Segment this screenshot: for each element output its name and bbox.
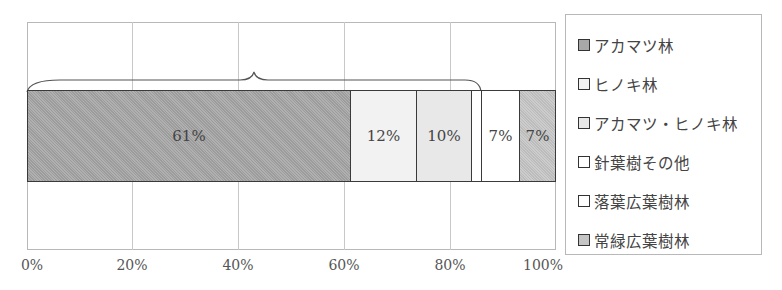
legend-label: 落葉広葉樹林: [594, 190, 690, 212]
x-tick-20: 20%: [116, 257, 147, 273]
segment-label: 7%: [526, 127, 550, 145]
legend-item-akamatsu-hinoki: アカマツ・ヒノキ林: [578, 103, 761, 142]
legend-swatch: [578, 195, 590, 207]
legend-label: アカマツ・ヒノキ林: [594, 112, 738, 134]
legend-swatch: [578, 117, 590, 129]
segment-akamatsu: 61%: [27, 90, 351, 182]
segment-evergreen-broadleaf: 7%: [519, 90, 556, 182]
segment-akamatsu-hinoki: 10%: [416, 90, 472, 182]
legend-label: ヒノキ林: [594, 73, 658, 95]
legend-swatch: [578, 234, 590, 246]
legend: アカマツ林 ヒノキ林 アカマツ・ヒノキ林 針葉樹その他 落葉広葉樹林 常緑広葉樹…: [565, 14, 762, 255]
legend-label: 常緑広葉樹林: [594, 229, 690, 251]
segment-label: 7%: [489, 127, 513, 145]
x-tick-40: 40%: [222, 257, 253, 273]
legend-label: 針葉樹その他: [594, 151, 690, 173]
x-tick-60: 60%: [328, 257, 359, 273]
legend-label: アカマツ林: [594, 34, 674, 56]
legend-item-hinoki: ヒノキ林: [578, 64, 761, 103]
legend-item-deciduous-broadleaf: 落葉広葉樹林: [578, 181, 761, 220]
segment-label: 12%: [367, 127, 400, 145]
legend-item-akamatsu: アカマツ林: [578, 25, 761, 64]
x-tick-80: 80%: [434, 257, 465, 273]
segment-label: 10%: [427, 127, 460, 145]
segment-hinoki: 12%: [350, 90, 417, 182]
legend-swatch: [578, 78, 590, 90]
segment-deciduous-broadleaf: 7%: [481, 90, 520, 182]
segment-label: 61%: [172, 127, 205, 145]
stacked-bar: 61% 12% 10% 7% 7%: [27, 90, 556, 182]
legend-item-conifer-other: 針葉樹その他: [578, 142, 761, 181]
legend-swatch: [578, 156, 590, 168]
legend-item-evergreen-broadleaf: 常緑広葉樹林: [578, 220, 761, 259]
x-tick-0: 0%: [21, 257, 43, 273]
x-tick-100: 100%: [523, 257, 563, 273]
legend-swatch: [578, 39, 590, 51]
